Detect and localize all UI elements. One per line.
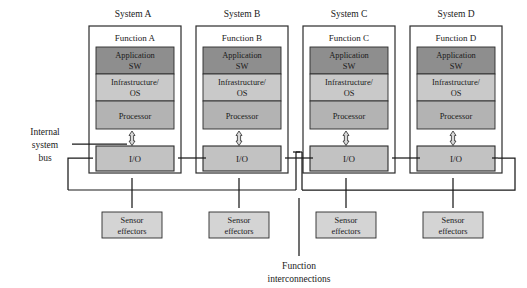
- system-d-processor-label: Processor: [440, 112, 473, 121]
- system-b-function-title: Function B: [222, 33, 262, 43]
- system-d-infrastructure-os-label-2: OS: [451, 89, 462, 98]
- internal-bus-label-1: Internal: [30, 127, 60, 137]
- system-c-title: System C: [331, 9, 368, 19]
- system-a-infrastructure-os-label-1: Infrastructure/: [111, 78, 160, 87]
- system-a-infrastructure-os-label-2: OS: [130, 89, 141, 98]
- system-a-application-sw-label-1: Application: [115, 51, 155, 60]
- system-c-application-sw-label-2: SW: [343, 62, 356, 71]
- system-architecture-diagram: System A Function A Application SW Infra…: [0, 0, 527, 288]
- system-a-io-label: I/O: [129, 154, 141, 164]
- system-a-sensor-label-2: effectors: [117, 227, 146, 236]
- internal-bus-label-2: system: [32, 140, 59, 150]
- system-a-title: System A: [115, 9, 152, 19]
- system-b-title: System B: [224, 9, 261, 19]
- system-c-processor-label: Processor: [333, 112, 366, 121]
- diagram-canvas: System A Function A Application SW Infra…: [0, 0, 527, 288]
- system-a-sensor-label-1: Sensor: [121, 216, 144, 225]
- system-d-title: System D: [437, 9, 474, 19]
- function-interconnect-label-2: interconnections: [268, 274, 331, 284]
- system-d-sensor-label-1: Sensor: [442, 216, 465, 225]
- system-a-function-title: Function A: [115, 33, 156, 43]
- system-d-application-sw-label-2: SW: [450, 62, 463, 71]
- system-d-application-sw-label-1: Application: [436, 51, 476, 60]
- system-b-processor-label: Processor: [226, 112, 259, 121]
- internal-bus-label-3: bus: [38, 153, 52, 163]
- system-a-processor-label: Processor: [119, 112, 152, 121]
- system-b-infrastructure-os-label-1: Infrastructure/: [218, 78, 267, 87]
- system-c-application-sw-label-1: Application: [329, 51, 369, 60]
- system-a-application-sw-label-2: SW: [129, 62, 142, 71]
- system-d-group: System D Function D Application SW Infra…: [410, 9, 502, 238]
- system-c-group: System C Function C Application SW Infra…: [303, 9, 395, 238]
- system-b-infrastructure-os-label-2: OS: [237, 89, 248, 98]
- system-b-sensor-label-1: Sensor: [228, 216, 251, 225]
- system-b-sensor-label-2: effectors: [224, 227, 253, 236]
- system-b-io-label: I/O: [236, 154, 248, 164]
- system-a-group: System A Function A Application SW Infra…: [89, 9, 181, 238]
- system-b-application-sw-label-2: SW: [236, 62, 249, 71]
- system-c-sensor-label-2: effectors: [331, 227, 360, 236]
- system-c-function-title: Function C: [329, 33, 369, 43]
- system-c-sensor-label-1: Sensor: [335, 216, 358, 225]
- system-b-application-sw-label-1: Application: [222, 51, 262, 60]
- function-interconnections-annotation: Function interconnections: [268, 198, 331, 284]
- system-d-function-title: Function D: [436, 33, 477, 43]
- function-interconnect-label-1: Function: [282, 261, 316, 271]
- system-d-io-label: I/O: [450, 154, 462, 164]
- system-d-infrastructure-os-label-1: Infrastructure/: [432, 78, 481, 87]
- system-c-infrastructure-os-label-1: Infrastructure/: [325, 78, 374, 87]
- system-b-group: System B Function B Application SW Infra…: [196, 9, 288, 238]
- system-d-sensor-label-2: effectors: [438, 227, 467, 236]
- system-c-infrastructure-os-label-2: OS: [344, 89, 355, 98]
- system-c-io-label: I/O: [343, 154, 355, 164]
